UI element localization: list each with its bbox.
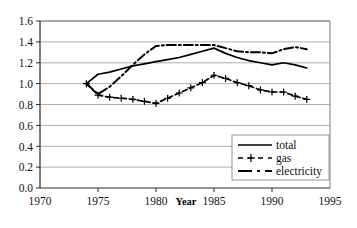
y-tick-label: 1.2 xyxy=(19,57,34,69)
x-tick-label: 1985 xyxy=(203,195,226,207)
x-tick-label: 1995 xyxy=(319,195,342,207)
y-tick-label: 0.8 xyxy=(19,99,34,111)
y-tick-label: 0.6 xyxy=(19,120,34,132)
line-chart: 1.6 1.4 1.2 1.0 0.8 0.6 0.4 0.2 0.0 1970… xyxy=(0,0,357,228)
x-axis-title: Year xyxy=(176,196,197,207)
y-tick-label: 0.2 xyxy=(19,161,34,173)
x-tick-label: 1975 xyxy=(87,195,110,207)
x-tick-label: 1990 xyxy=(261,195,284,207)
y-tick-label: 0.0 xyxy=(19,182,34,194)
legend: total gas electricity xyxy=(232,135,329,180)
y-tick-label: 1.0 xyxy=(19,78,34,90)
y-tick-labels: 1.6 1.4 1.2 1.0 0.8 0.6 0.4 0.2 0.0 xyxy=(19,15,34,194)
y-tick-label: 1.6 xyxy=(19,15,34,27)
legend-label-total: total xyxy=(276,139,296,151)
chart-container: 1.6 1.4 1.2 1.0 0.8 0.6 0.4 0.2 0.0 1970… xyxy=(0,0,357,228)
y-tick-label: 0.4 xyxy=(19,141,34,153)
y-tick-label: 1.4 xyxy=(19,36,34,48)
chart-background xyxy=(0,0,357,228)
legend-label-gas: gas xyxy=(276,152,292,165)
x-tick-label: 1980 xyxy=(145,195,168,207)
legend-label-electricity: electricity xyxy=(276,165,322,178)
x-tick-label: 1970 xyxy=(29,195,52,207)
